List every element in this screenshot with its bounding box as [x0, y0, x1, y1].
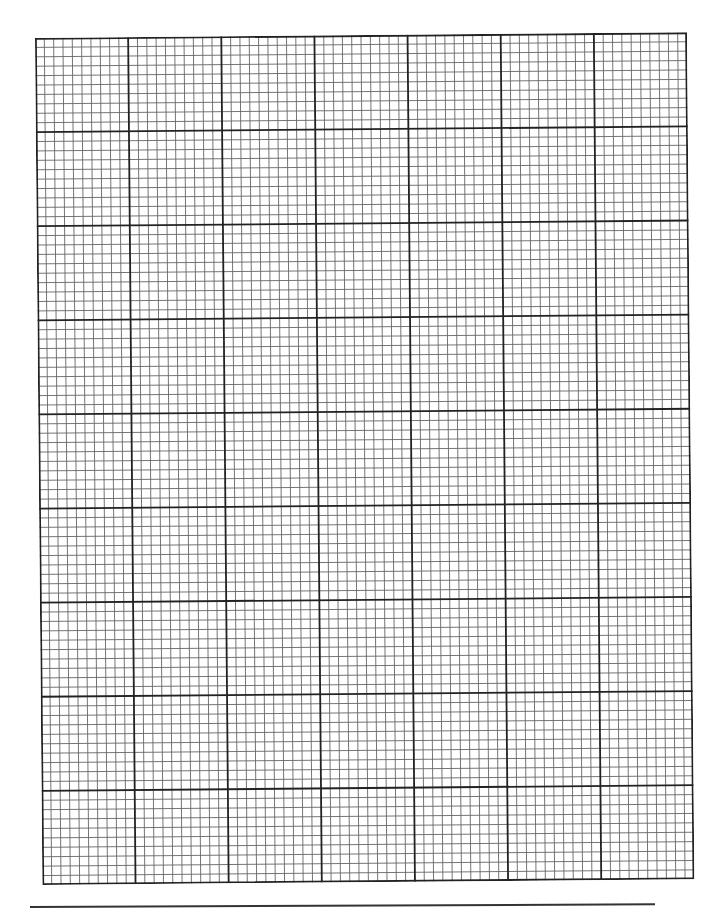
grid-svg — [35, 32, 694, 885]
footer-rule-line — [30, 903, 655, 908]
graph-grid — [35, 32, 694, 885]
graph-paper-page — [0, 0, 724, 923]
